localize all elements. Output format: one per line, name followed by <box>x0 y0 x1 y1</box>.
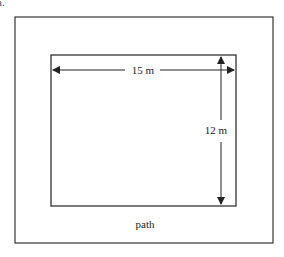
path-diagram: 15 m 12 m path <box>0 0 284 257</box>
height-dimension: 12 m <box>205 57 228 204</box>
width-label: 15 m <box>132 64 155 76</box>
width-dimension: 15 m <box>53 64 234 76</box>
path-label: path <box>136 218 155 230</box>
outer-rectangle <box>15 17 273 243</box>
height-label: 12 m <box>205 124 228 136</box>
